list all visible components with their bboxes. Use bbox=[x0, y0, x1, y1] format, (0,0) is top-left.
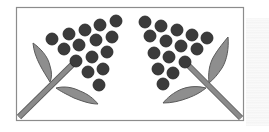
right-berry bbox=[160, 35, 172, 47]
left-berry bbox=[90, 34, 102, 46]
left-berry bbox=[101, 46, 113, 58]
picture-frame bbox=[17, 8, 244, 121]
right-berry bbox=[167, 67, 179, 79]
right-berry bbox=[139, 16, 151, 28]
left-lower-leaf bbox=[56, 87, 98, 104]
right-berry bbox=[148, 47, 160, 59]
right-berry bbox=[201, 32, 213, 44]
berry-sprigs-illustration bbox=[0, 0, 269, 132]
right-berry bbox=[152, 63, 164, 75]
right-berry bbox=[171, 24, 183, 36]
left-berry bbox=[94, 19, 106, 31]
left-berry bbox=[106, 31, 118, 43]
right-berry bbox=[186, 29, 198, 41]
right-berry bbox=[191, 43, 203, 55]
right-berry bbox=[157, 78, 169, 90]
paper-texture-band bbox=[246, 18, 269, 126]
left-berry bbox=[110, 15, 122, 27]
left-berry bbox=[73, 39, 85, 51]
left-berry bbox=[82, 66, 94, 78]
right-lower-leaf bbox=[163, 87, 206, 103]
left-berry bbox=[79, 24, 91, 36]
right-berry bbox=[155, 20, 167, 32]
right-upper-leaf bbox=[209, 37, 229, 83]
left-berry bbox=[58, 43, 70, 55]
left-berry bbox=[93, 79, 105, 91]
right-berry bbox=[144, 30, 156, 42]
left-berry bbox=[70, 55, 82, 67]
right-berry bbox=[163, 51, 175, 63]
right-berry bbox=[179, 56, 191, 68]
left-berry-sprig bbox=[19, 15, 122, 117]
illustration-svg bbox=[0, 0, 269, 132]
right-berry bbox=[175, 40, 187, 52]
left-berry bbox=[46, 33, 58, 45]
left-berry bbox=[97, 63, 109, 75]
left-upper-leaf bbox=[33, 43, 52, 82]
left-berry bbox=[63, 28, 75, 40]
right-berry-sprig bbox=[139, 16, 241, 118]
left-berry bbox=[86, 51, 98, 63]
